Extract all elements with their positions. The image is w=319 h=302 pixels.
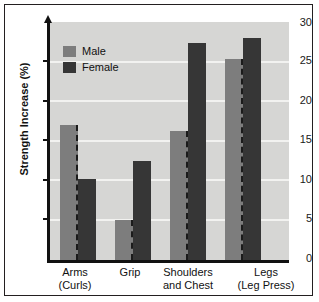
legend-swatch-male-icon bbox=[63, 46, 76, 57]
x-category-label-shoulders-line1: Shoulders bbox=[148, 266, 228, 279]
y-tick-label-25: 25 bbox=[278, 55, 312, 66]
y-tickmark-10 bbox=[43, 179, 48, 181]
y-tick-label-5: 5 bbox=[278, 213, 312, 224]
bar-male-grip bbox=[115, 220, 133, 260]
x-category-label-arms: Arms (Curls) bbox=[45, 266, 105, 292]
y-axis-arrow-icon bbox=[44, 15, 52, 23]
x-category-label-shoulders: Shoulders and Chest bbox=[148, 266, 228, 292]
bar-male-legs bbox=[225, 59, 243, 260]
legend-item-male: Male bbox=[63, 44, 119, 58]
x-category-label-legs: Legs (Leg Press) bbox=[226, 266, 306, 292]
y-tick-label-10: 10 bbox=[278, 174, 312, 185]
legend-label-female: Female bbox=[82, 62, 119, 73]
bar-female-legs bbox=[243, 38, 261, 260]
bar-male-arms bbox=[60, 125, 78, 260]
bar-female-grip bbox=[133, 161, 151, 260]
y-tick-label-20: 20 bbox=[278, 95, 312, 106]
y-tick-label-30: 30 bbox=[278, 17, 312, 28]
legend-label-male: Male bbox=[82, 46, 106, 57]
x-category-label-shoulders-line2: and Chest bbox=[148, 279, 228, 292]
x-category-label-arms-line2: (Curls) bbox=[45, 279, 105, 292]
x-category-label-legs-line2: (Leg Press) bbox=[226, 279, 306, 292]
y-tickmark-25 bbox=[43, 60, 48, 62]
bar-female-shoulders bbox=[188, 43, 206, 260]
y-tickmark-5 bbox=[43, 218, 48, 220]
y-tick-label-15: 15 bbox=[278, 134, 312, 145]
bar-male-shoulders bbox=[170, 131, 188, 260]
y-tick-label-0: 0 bbox=[278, 253, 312, 264]
y-axis-title: Strength Increase (%) bbox=[18, 44, 30, 194]
y-axis-line bbox=[47, 22, 50, 261]
legend-swatch-female-icon bbox=[63, 62, 76, 73]
x-axis-line bbox=[47, 260, 289, 263]
chart-figure: 30 25 20 15 10 5 0 Strength Increase (%)… bbox=[4, 4, 313, 296]
chart-legend: Male Female bbox=[63, 44, 119, 76]
legend-item-female: Female bbox=[63, 60, 119, 74]
x-category-label-legs-line1: Legs bbox=[226, 266, 306, 279]
x-category-label-arms-line1: Arms bbox=[45, 266, 105, 279]
y-tickmark-20 bbox=[43, 100, 48, 102]
y-tickmark-15 bbox=[43, 139, 48, 141]
bar-female-arms bbox=[78, 179, 96, 260]
